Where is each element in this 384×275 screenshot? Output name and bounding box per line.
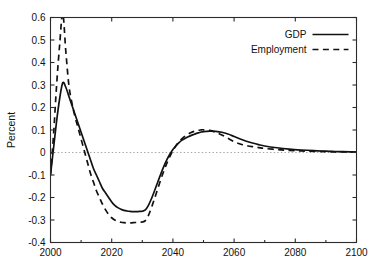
y-axis-title: Percent <box>5 112 17 148</box>
legend-label-employment: Employment <box>251 44 307 55</box>
chart-figure: 200020202040206020802100 -0.4-0.3-0.2-0.… <box>0 0 384 275</box>
y-tick-label: 0.4 <box>32 57 46 68</box>
y-axis-title-text: Percent <box>5 112 17 148</box>
y-tick-label: -0.1 <box>28 170 46 181</box>
chart-legend: GDPEmployment <box>251 29 349 55</box>
y-tick-label: -0.4 <box>28 237 46 248</box>
line-chart: 200020202040206020802100 -0.4-0.3-0.2-0.… <box>0 0 384 275</box>
x-tick-label: 2100 <box>345 247 368 258</box>
x-tick-label: 2080 <box>284 247 307 258</box>
x-tick-label: 2040 <box>162 247 185 258</box>
x-tick-label: 2020 <box>101 247 124 258</box>
y-tick-label: 0.5 <box>32 35 46 46</box>
x-tick-labels: 200020202040206020802100 <box>39 247 368 258</box>
legend-label-gdp: GDP <box>285 29 307 40</box>
y-tick-label: -0.2 <box>28 192 46 203</box>
y-tick-label: 0.2 <box>32 102 46 113</box>
y-tick-label: -0.3 <box>28 215 46 226</box>
x-tick-label: 2060 <box>223 247 246 258</box>
y-tick-label: 0.1 <box>32 125 46 136</box>
y-tick-labels: -0.4-0.3-0.2-0.100.10.20.30.40.50.6 <box>28 12 46 248</box>
y-tick-label: 0.6 <box>32 12 46 23</box>
y-tick-label: 0.3 <box>32 80 46 91</box>
y-tick-label: 0 <box>40 147 46 158</box>
x-tick-label: 2000 <box>39 247 62 258</box>
series-line-employment <box>51 13 357 223</box>
series-lines <box>51 13 357 223</box>
